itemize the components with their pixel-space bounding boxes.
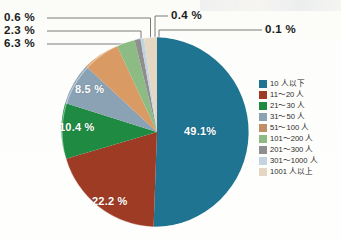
- slice-label-49-1: 49.1%: [184, 125, 216, 137]
- callout-label-6-3: 6.3 %: [4, 37, 35, 49]
- slice-label-10-4: 10.4 %: [59, 121, 94, 133]
- callout-label-0-4: 0.4 %: [171, 9, 202, 21]
- legend-swatch: [259, 168, 267, 176]
- legend-item-101-200[interactable]: 101～200 人: [259, 134, 318, 144]
- legend-swatch: [259, 124, 267, 132]
- legend-item-21-30[interactable]: 21～30 人: [259, 101, 318, 111]
- callout-label-2-3: 2.3 %: [4, 24, 35, 36]
- legend-item-label: 11～20 人: [270, 90, 304, 100]
- legend-swatch: [259, 135, 267, 143]
- legend-item-label: 101～200 人: [270, 134, 313, 144]
- callout-label-0-1: 0.1 %: [265, 23, 296, 35]
- callout-label-0-6: 0.6 %: [4, 11, 35, 23]
- legend-swatch: [259, 113, 267, 121]
- legend-item-1001-or-more[interactable]: 1001 人以上: [259, 167, 318, 177]
- legend-item-label: 21～30 人: [270, 101, 305, 111]
- legend-swatch: [259, 91, 267, 99]
- legend-swatch: [259, 146, 267, 154]
- legend-swatch: [259, 157, 267, 165]
- chart-legend: 10 人以下 11～20 人 21～30 人 31～50 人 51～100 人 …: [259, 79, 318, 177]
- legend-item-31-50[interactable]: 31～50 人: [259, 112, 318, 122]
- legend-item-301-1000[interactable]: 301～1000 人: [259, 156, 318, 166]
- slice-label-8-5: 8.5 %: [75, 83, 104, 95]
- legend-item-label: 51～100 人: [270, 123, 309, 133]
- legend-item-11-20[interactable]: 11～20 人: [259, 90, 318, 100]
- legend-item-label: 1001 人以上: [270, 167, 313, 177]
- pie-chart: 0.6 % 2.3 % 6.3 % 0.4 % 0.1 % 49.1% 22.2…: [0, 0, 341, 240]
- legend-item-10-or-fewer[interactable]: 10 人以下: [259, 79, 318, 89]
- legend-swatch: [259, 80, 267, 88]
- legend-item-label: 301～1000 人: [270, 156, 318, 166]
- legend-item-51-100[interactable]: 51～100 人: [259, 123, 318, 133]
- legend-item-label: 31～50 人: [270, 112, 305, 122]
- legend-item-201-300[interactable]: 201～300 人: [259, 145, 318, 155]
- slice-label-22-2: 22.2 %: [92, 195, 127, 207]
- legend-item-label: 201～300 人: [270, 145, 313, 155]
- legend-item-label: 10 人以下: [270, 79, 305, 89]
- legend-swatch: [259, 102, 267, 110]
